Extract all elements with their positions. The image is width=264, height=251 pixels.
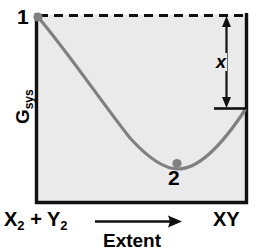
x-tick-label-right: XY [213, 209, 240, 229]
y-axis-label-main: G [12, 109, 33, 124]
y-axis-label-subscript: sys [22, 89, 36, 109]
gap-label: x [215, 53, 227, 71]
extent-direction-arrow [95, 216, 182, 228]
x-tick-label-left: X2 + Y2 [4, 209, 68, 232]
x-tick-left-main: X [4, 208, 17, 230]
x-tick-left-middle: + Y [25, 208, 61, 230]
point-label-one: 1 [17, 6, 29, 27]
free-energy-extent-chart: Gsys 1 2 x X2 + Y2 XY Extent [0, 0, 264, 251]
y-axis-label: Gsys [13, 77, 34, 137]
point-marker-one [33, 12, 42, 21]
point-label-two: 2 [168, 167, 180, 188]
x-axis-label: Extent [0, 231, 264, 250]
